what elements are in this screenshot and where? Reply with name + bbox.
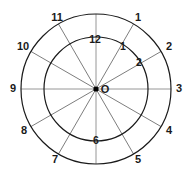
outer-hour-label-10: 10: [17, 40, 29, 52]
inner-hour-label-2: 2: [136, 56, 142, 68]
outer-hour-label-1: 1: [135, 11, 141, 23]
center-label-O: O: [101, 83, 110, 95]
outer-hour-label-4: 4: [166, 124, 173, 136]
spoke-line-8: [31, 89, 96, 127]
inner-hour-label-1: 1: [120, 40, 126, 52]
outer-hour-label-3: 3: [176, 82, 182, 94]
outer-hour-label-11: 11: [51, 11, 63, 23]
outer-hour-label-7: 7: [52, 153, 58, 165]
inner-hour-label-6: 6: [93, 134, 99, 146]
spoke-line-5: [96, 89, 134, 154]
outer-hour-label-2: 2: [166, 40, 172, 52]
outer-hour-label-9: 9: [10, 82, 16, 94]
outer-hour-label-8: 8: [21, 124, 27, 136]
center-point-dot: [93, 86, 98, 91]
outer-hour-label-5: 5: [135, 153, 141, 165]
clock-diagram-canvas: 123457891011 12126 O: [0, 0, 190, 175]
clock-diagram: 123457891011 12126 O: [0, 0, 190, 175]
spoke-line-1: [96, 24, 134, 89]
spoke-line-7: [59, 89, 97, 154]
inner-hour-label-12: 12: [89, 33, 101, 45]
spoke-line-10: [31, 52, 96, 90]
